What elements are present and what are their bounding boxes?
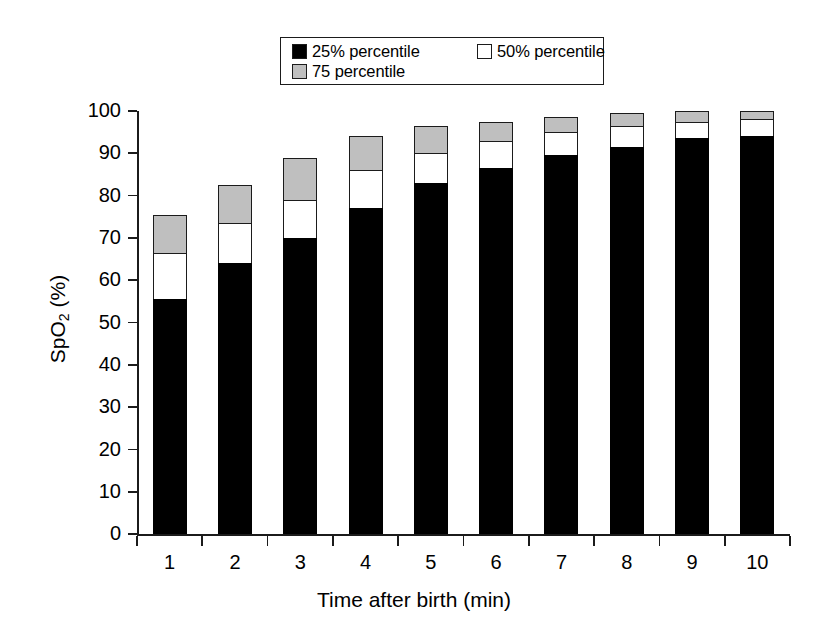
bar-segment-p25	[675, 138, 709, 534]
y-axis-tick-label: 10	[99, 480, 121, 500]
x-axis-tick	[332, 536, 334, 546]
spo2-percentile-bar-chart: 25% percentile 50% percentile 75 percent…	[0, 0, 828, 637]
y-axis-tick: 80	[128, 195, 137, 197]
y-axis-tick-label: 20	[99, 438, 121, 458]
x-axis-tick-label: 4	[360, 551, 371, 573]
y-axis-tick-label: 50	[99, 311, 121, 331]
bar-5	[414, 111, 448, 534]
bar-segment-p25	[218, 263, 252, 534]
y-axis-title-post: (%)	[46, 274, 69, 313]
legend-label-50-percentile: 50% percentile	[497, 43, 605, 59]
x-axis-tick	[528, 536, 530, 546]
y-axis-tick: 40	[128, 364, 137, 366]
y-axis-tick-label: 90	[99, 142, 121, 162]
bar-segment-p25	[283, 238, 317, 534]
x-axis-tick-label: 7	[556, 551, 567, 573]
x-axis-tick-label: 3	[295, 551, 306, 573]
y-axis-tick: 30	[128, 406, 137, 408]
bar-segment-p25	[479, 168, 513, 534]
legend-label-25-percentile: 25% percentile	[312, 43, 420, 59]
legend-swatch-50-percentile	[477, 44, 492, 59]
plot-area: 0102030405060708090100 12345678910	[137, 111, 790, 534]
legend-entry-75-percentile: 75 percentile	[292, 63, 405, 79]
bar-segment-p25	[349, 208, 383, 534]
bar-segment-p25	[414, 183, 448, 534]
x-axis-title: Time after birth (min)	[0, 588, 828, 612]
y-axis-title-subscript: 2	[56, 313, 72, 321]
legend-swatch-25-percentile	[292, 44, 307, 59]
bar-4	[349, 111, 383, 534]
x-axis-tick-label: 5	[425, 551, 436, 573]
y-axis-tick: 90	[128, 152, 137, 154]
x-axis-tick-label: 9	[686, 551, 697, 573]
y-axis-tick-label: 80	[99, 184, 121, 204]
y-axis-tick-label: 70	[99, 227, 121, 247]
x-axis-tick	[397, 536, 399, 546]
y-axis-tick: 100	[128, 110, 137, 112]
y-axis-title: SpO2 (%)	[46, 274, 70, 362]
bar-10	[740, 111, 774, 534]
x-axis-tick	[267, 536, 269, 546]
y-axis-tick-label: 60	[99, 269, 121, 289]
bar-segment-p25	[610, 147, 644, 534]
x-axis-tick-label: 10	[746, 551, 768, 573]
y-axis-tick: 70	[128, 237, 137, 239]
y-axis-tick-label: 0	[110, 523, 121, 543]
legend-swatch-75-percentile	[292, 64, 307, 79]
y-axis-tick-label: 30	[99, 396, 121, 416]
x-axis-tick	[724, 536, 726, 546]
x-axis-tick	[463, 536, 465, 546]
bar-segment-p25	[153, 299, 187, 534]
bar-segment-p25	[740, 136, 774, 534]
y-axis-title-pre: SpO	[46, 321, 69, 363]
legend-entry-50-percentile: 50% percentile	[477, 43, 605, 59]
legend-label-75-percentile: 75 percentile	[312, 63, 405, 79]
bar-8	[610, 111, 644, 534]
y-axis-tick: 50	[128, 322, 137, 324]
y-axis-tick-label: 40	[99, 353, 121, 373]
bar-segment-p25	[544, 155, 578, 534]
x-axis-tick	[789, 536, 791, 546]
x-axis-tick-label: 1	[164, 551, 175, 573]
y-axis-line	[137, 111, 139, 535]
x-axis-tick	[136, 536, 138, 546]
y-axis-tick: 0	[128, 533, 137, 535]
bar-7	[544, 111, 578, 534]
x-axis-tick-label: 8	[621, 551, 632, 573]
legend-entry-25-percentile: 25% percentile	[292, 43, 420, 59]
chart-legend: 25% percentile 50% percentile 75 percent…	[280, 37, 604, 85]
x-axis-tick	[659, 536, 661, 546]
y-axis-tick: 10	[128, 491, 137, 493]
bar-1	[153, 111, 187, 534]
y-axis-tick: 60	[128, 279, 137, 281]
x-axis-tick-label: 6	[491, 551, 502, 573]
bar-3	[283, 111, 317, 534]
bar-6	[479, 111, 513, 534]
y-axis-tick: 20	[128, 449, 137, 451]
y-axis-tick-label: 100	[88, 100, 121, 120]
x-axis-tick-label: 2	[229, 551, 240, 573]
bar-2	[218, 111, 252, 534]
bar-9	[675, 111, 709, 534]
x-axis-tick	[201, 536, 203, 546]
x-axis-tick	[593, 536, 595, 546]
